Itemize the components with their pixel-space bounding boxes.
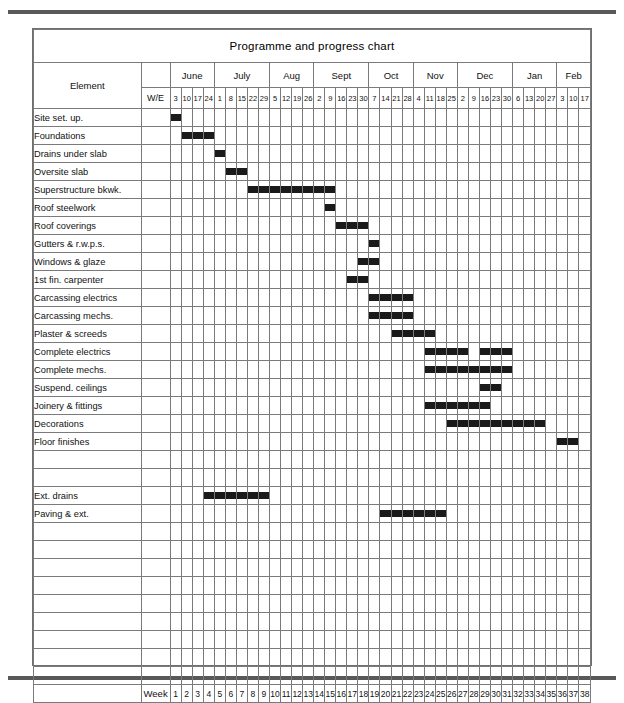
gantt-cell — [170, 343, 181, 361]
gantt-cell — [413, 109, 424, 127]
gantt-cell — [380, 559, 391, 577]
gantt-cell — [424, 181, 435, 199]
gantt-cell — [214, 289, 225, 307]
gantt-cell — [446, 433, 457, 451]
gantt-cell — [270, 145, 281, 163]
gantt-cell — [292, 469, 303, 487]
gantt-cell — [501, 577, 512, 595]
gantt-cell — [214, 559, 225, 577]
gantt-cell — [479, 433, 490, 451]
week-ending-date: 2 — [314, 88, 325, 109]
gantt-cell — [258, 289, 269, 307]
gantt-cell — [479, 469, 490, 487]
gantt-cell — [325, 505, 336, 523]
gantt-cell — [524, 217, 535, 235]
task-row — [34, 631, 591, 649]
gantt-cell — [358, 397, 369, 415]
gantt-cell — [236, 379, 247, 397]
gantt-cell — [303, 145, 314, 163]
gantt-cell — [479, 379, 490, 397]
gantt-cell — [336, 667, 347, 685]
gantt-cell — [170, 451, 181, 469]
gantt-cell — [524, 559, 535, 577]
gantt-cell — [579, 289, 591, 307]
gantt-cell — [435, 613, 446, 631]
gantt-cell — [402, 415, 413, 433]
gantt-cell — [524, 325, 535, 343]
gantt-cell — [557, 217, 568, 235]
gantt-cell — [336, 523, 347, 541]
gantt-cell — [546, 613, 557, 631]
gantt-cell — [468, 559, 479, 577]
task-we-cell — [141, 595, 170, 613]
gantt-cell — [292, 541, 303, 559]
gantt-cell — [524, 397, 535, 415]
gantt-table: Programme and progress chartElementJuneJ… — [33, 29, 591, 703]
gantt-cell — [490, 397, 501, 415]
gantt-cell — [292, 523, 303, 541]
gantt-cell — [369, 415, 380, 433]
gantt-cell — [501, 289, 512, 307]
gantt-cell — [490, 109, 501, 127]
gantt-cell — [468, 397, 479, 415]
gantt-cell — [336, 397, 347, 415]
gantt-cell — [380, 667, 391, 685]
gantt-cell — [424, 361, 435, 379]
gantt-cell — [457, 577, 468, 595]
gantt-cell — [501, 253, 512, 271]
gantt-cell — [424, 523, 435, 541]
gantt-cell — [479, 505, 490, 523]
task-label: Foundations — [34, 127, 142, 145]
gantt-cell — [579, 127, 591, 145]
week-ending-date: 29 — [258, 88, 269, 109]
gantt-cell — [214, 343, 225, 361]
gantt-cell — [513, 163, 524, 181]
task-label: Decorations — [34, 415, 142, 433]
task-we-cell — [141, 289, 170, 307]
gantt-cell — [270, 343, 281, 361]
gantt-cell — [535, 343, 546, 361]
task-label — [34, 451, 142, 469]
gantt-cell — [203, 379, 214, 397]
gantt-cell — [557, 559, 568, 577]
gantt-cell — [457, 667, 468, 685]
gantt-cell — [513, 649, 524, 667]
gantt-cell — [214, 235, 225, 253]
gantt-cell — [170, 613, 181, 631]
gantt-cell — [214, 541, 225, 559]
gantt-cell — [479, 325, 490, 343]
gantt-cell — [380, 163, 391, 181]
gantt-cell — [369, 271, 380, 289]
gantt-cell — [457, 289, 468, 307]
task-label: 1st fin. carpenter — [34, 271, 142, 289]
gantt-bar-segment — [491, 420, 501, 427]
gantt-cell — [192, 343, 203, 361]
gantt-cell — [247, 397, 258, 415]
gantt-bar-segment — [347, 276, 357, 283]
gantt-cell — [524, 505, 535, 523]
gantt-cell — [413, 361, 424, 379]
gantt-cell — [535, 145, 546, 163]
gantt-cell — [247, 415, 258, 433]
gantt-bar-segment — [480, 402, 490, 409]
gantt-bar-segment — [557, 438, 567, 445]
gantt-cell — [314, 379, 325, 397]
week-number-cell: 12 — [292, 685, 303, 703]
gantt-cell — [557, 613, 568, 631]
gantt-cell — [513, 199, 524, 217]
gantt-cell — [314, 235, 325, 253]
gantt-bar-segment — [480, 348, 490, 355]
gantt-cell — [281, 361, 292, 379]
week-ending-date: 6 — [513, 88, 524, 109]
gantt-cell — [535, 631, 546, 649]
gantt-cell — [303, 181, 314, 199]
gantt-cell — [535, 397, 546, 415]
gantt-cell — [557, 451, 568, 469]
week-ending-date: 16 — [479, 88, 490, 109]
gantt-cell — [535, 667, 546, 685]
gantt-cell — [446, 559, 457, 577]
gantt-cell — [457, 649, 468, 667]
gantt-cell — [214, 469, 225, 487]
gantt-cell — [380, 343, 391, 361]
month-header-june: June — [170, 63, 214, 88]
